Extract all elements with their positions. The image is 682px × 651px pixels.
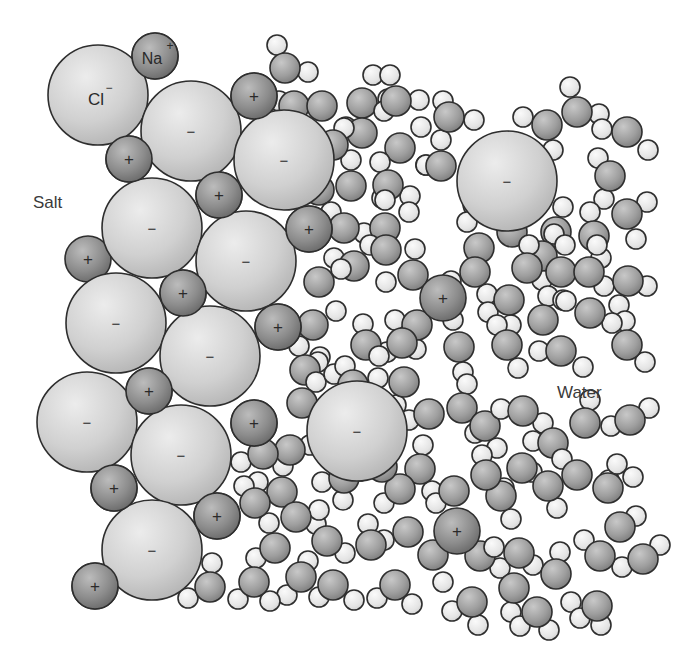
sodium-ion: + bbox=[286, 206, 332, 252]
oxygen-atom bbox=[582, 591, 612, 621]
oxygen-atom bbox=[504, 538, 534, 568]
hydrogen-atom bbox=[623, 467, 643, 487]
oxygen-atom bbox=[457, 587, 487, 617]
plus-charge-icon: + bbox=[83, 250, 93, 269]
hydrogen-atom bbox=[513, 107, 533, 127]
hydrogen-atom bbox=[267, 35, 287, 55]
oxygen-atom bbox=[380, 570, 410, 600]
oxygen-atom bbox=[381, 86, 411, 116]
oxygen-atom bbox=[347, 88, 377, 118]
water-molecule bbox=[367, 570, 422, 614]
hydrogen-atom bbox=[484, 537, 504, 557]
hydrogen-atom bbox=[560, 77, 580, 97]
oxygen-atom bbox=[562, 460, 592, 490]
sodium-ion: + bbox=[231, 400, 277, 446]
plus-charge-icon: + bbox=[249, 414, 259, 433]
minus-charge-icon: − bbox=[187, 123, 196, 140]
sodium-ion: + bbox=[160, 270, 206, 316]
hydrogen-atom bbox=[519, 235, 539, 255]
hydrogen-atom bbox=[573, 357, 593, 377]
oxygen-atom bbox=[260, 533, 290, 563]
oxygen-atom bbox=[541, 559, 571, 589]
hydrogen-atom bbox=[508, 358, 528, 378]
plus-charge-icon: + bbox=[212, 507, 222, 526]
oxygen-atom bbox=[528, 305, 558, 335]
oxygen-atom bbox=[532, 110, 562, 140]
hydrogen-atom bbox=[580, 202, 600, 222]
hydrogen-atom bbox=[344, 590, 364, 610]
hydrogen-atom bbox=[464, 110, 484, 130]
minus-charge-icon: − bbox=[353, 423, 362, 440]
oxygen-atom bbox=[195, 572, 225, 602]
sodium-ion: + bbox=[72, 563, 118, 609]
water-molecule bbox=[433, 91, 484, 132]
minus-charge-icon: − bbox=[206, 348, 215, 365]
minus-charge-icon: − bbox=[503, 173, 512, 190]
oxygen-atom bbox=[275, 435, 305, 465]
salt-dissolution-diagram: Na+++++++++++++Cl−−−−−−−−−−Na+++++++++++… bbox=[0, 0, 682, 651]
hydrogen-atom bbox=[202, 553, 222, 573]
chloride-ion: − bbox=[37, 372, 137, 472]
hydrogen-atom bbox=[433, 572, 453, 592]
hydrogen-atom bbox=[555, 235, 575, 255]
hydrogen-atom bbox=[409, 90, 429, 110]
hydrogen-atom bbox=[298, 62, 318, 82]
oxygen-atom bbox=[298, 310, 328, 340]
oxygen-atom bbox=[585, 541, 615, 571]
oxygen-atom bbox=[546, 336, 576, 366]
oxygen-atom bbox=[281, 502, 311, 532]
hydrogen-atom bbox=[626, 229, 646, 249]
chloride-ion: − bbox=[141, 81, 241, 181]
oxygen-atom bbox=[628, 544, 658, 574]
oxygen-atom bbox=[393, 517, 423, 547]
oxygen-atom bbox=[389, 367, 419, 397]
oxygen-atom bbox=[574, 257, 604, 287]
minus-charge-icon: − bbox=[177, 447, 186, 464]
oxygen-atom bbox=[444, 332, 474, 362]
oxygen-atom bbox=[613, 266, 643, 296]
chloride-ion: − bbox=[66, 273, 166, 373]
hydrogen-atom bbox=[501, 509, 521, 529]
sodium-ion: + bbox=[196, 172, 242, 218]
sodium-ion: + bbox=[420, 275, 466, 321]
oxygen-atom bbox=[605, 512, 635, 542]
sodium-ion: + bbox=[255, 304, 301, 350]
hydrogen-atom bbox=[399, 202, 419, 222]
chloride-ion: − bbox=[196, 211, 296, 311]
plus-charge-icon: + bbox=[452, 522, 462, 541]
minus-charge-icon: − bbox=[83, 414, 92, 431]
water-molecule bbox=[529, 336, 593, 377]
chloride-ion: − bbox=[131, 405, 231, 505]
plus-charge-icon: + bbox=[178, 284, 188, 303]
oxygen-atom bbox=[304, 267, 334, 297]
water-molecule bbox=[628, 535, 670, 574]
oxygen-atom bbox=[460, 257, 490, 287]
sodium-ion: + bbox=[434, 508, 480, 554]
hydrogen-atom bbox=[638, 140, 658, 160]
water-molecule bbox=[588, 148, 625, 209]
hydrogen-atom bbox=[556, 291, 576, 311]
plus-charge-icon: + bbox=[273, 318, 283, 337]
oxygen-atom bbox=[494, 285, 524, 315]
water-molecule bbox=[593, 454, 643, 503]
hydrogen-atom bbox=[431, 130, 451, 150]
plus-charge-icon: + bbox=[214, 186, 224, 205]
hydrogen-atom bbox=[309, 500, 329, 520]
oxygen-atom bbox=[615, 405, 645, 435]
oxygen-atom bbox=[240, 488, 270, 518]
hydrogen-atom bbox=[331, 259, 351, 279]
hydrogen-atom bbox=[553, 197, 573, 217]
oxygen-atom bbox=[507, 453, 537, 483]
sodium-ion-labeled: Na+ bbox=[132, 33, 178, 79]
oxygen-atom bbox=[329, 213, 359, 243]
water-molecule bbox=[612, 192, 657, 249]
oxygen-atom bbox=[356, 530, 386, 560]
hydrogen-atom bbox=[369, 346, 389, 366]
minus-charge-icon: − bbox=[148, 542, 157, 559]
oxygen-atom bbox=[318, 570, 348, 600]
oxygen-atom bbox=[512, 253, 542, 283]
hydrogen-atom bbox=[380, 65, 400, 85]
oxygen-atom bbox=[612, 199, 642, 229]
water-molecule bbox=[609, 266, 657, 315]
plus-charge-icon: + bbox=[90, 577, 100, 596]
